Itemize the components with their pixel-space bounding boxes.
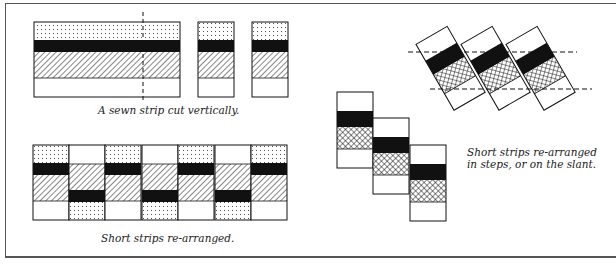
caption-steps-line2: in steps, or on the slant. [467, 158, 596, 170]
cut-strip [252, 22, 288, 97]
quilting-diagram [0, 0, 616, 265]
cut-strip [198, 22, 234, 97]
caption-rearranged: Short strips re-arranged. [101, 232, 234, 244]
slanted-strips [416, 26, 575, 110]
stepped-strips [337, 92, 446, 221]
caption-cut: A sewn strip cut vertically. [98, 104, 239, 116]
rearranged-row [33, 145, 287, 220]
caption-steps-line1: Short strips re-arranged [467, 146, 597, 158]
sewn-strip [34, 22, 180, 97]
